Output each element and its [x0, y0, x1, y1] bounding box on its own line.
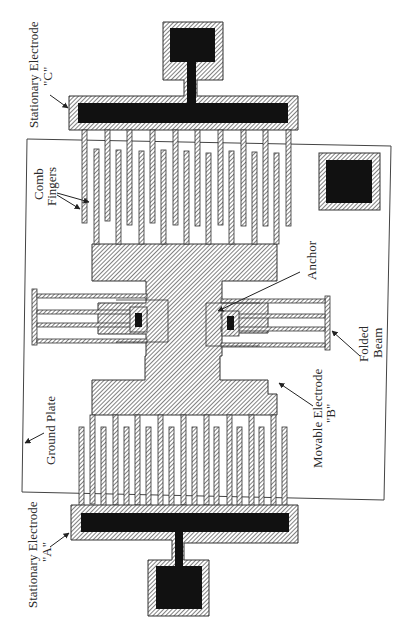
label-ground-plate: Ground Plate — [43, 396, 58, 465]
label-anchor: Anchor — [304, 240, 319, 280]
svg-text:Folded: Folded — [356, 325, 371, 362]
comb-fingers-b-top — [94, 149, 279, 244]
anchor-right — [222, 311, 239, 336]
mems-comb-drive-diagram: Stationary Electrode "C" Comb Fingers An… — [0, 0, 405, 641]
label-stationary-electrode-a: Stationary Electrode "A" — [25, 501, 54, 608]
arrow-stationary-a — [50, 533, 69, 547]
svg-text:"B": "B" — [323, 404, 338, 423]
arrow-comb-2 — [57, 195, 80, 209]
label-stationary-electrode-c: Stationary Electrode "C" — [26, 21, 55, 128]
svg-text:"A": "A" — [39, 542, 54, 562]
stationary-electrode-c — [69, 22, 298, 226]
svg-text:Fingers: Fingers — [44, 167, 59, 206]
label-comb-fingers: Comb Fingers — [31, 167, 59, 206]
svg-text:Ground Plate: Ground Plate — [43, 396, 58, 465]
svg-text:Beam: Beam — [370, 328, 385, 358]
label-folded-beam: Folded Beam — [356, 325, 385, 362]
arrow-movable-b — [279, 383, 313, 406]
svg-text:Stationary Electrode: Stationary Electrode — [26, 21, 41, 128]
svg-text:Stationary Electrode: Stationary Electrode — [25, 501, 40, 608]
arrow-ground-plate — [25, 433, 44, 443]
svg-text:"C": "C" — [40, 67, 55, 86]
anchor-left — [130, 307, 147, 332]
arrow-stationary-c — [50, 95, 68, 108]
comb-fingers-b-bottom — [90, 415, 276, 508]
ground-pad — [319, 153, 380, 210]
label-movable-electrode-b: Movable Electrode "B" — [310, 369, 338, 468]
svg-text:Anchor: Anchor — [304, 240, 319, 280]
